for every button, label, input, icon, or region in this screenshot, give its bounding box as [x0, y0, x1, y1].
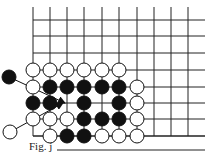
white-stone: [26, 112, 40, 126]
white-stone: [60, 63, 74, 77]
white-stone: [60, 112, 74, 126]
white-stone: [77, 63, 91, 77]
white-stone: [95, 63, 109, 77]
board-stones: [26, 63, 144, 143]
black-stone: [60, 129, 74, 143]
white-stone: [26, 80, 40, 94]
outside-stones: [2, 70, 17, 139]
white-stone: [130, 112, 144, 126]
white-stone-outside: [3, 125, 17, 139]
white-stone: [26, 63, 40, 77]
black-stone: [95, 112, 109, 126]
white-stone: [43, 112, 57, 126]
black-stone: [112, 112, 126, 126]
figure-caption: Fig. j: [29, 140, 52, 153]
black-stone: [95, 80, 109, 94]
white-stone: [95, 129, 109, 143]
white-stone: [43, 63, 57, 77]
black-stone: [43, 80, 57, 94]
black-stone: [77, 80, 91, 94]
black-stone: [77, 112, 91, 126]
white-stone: [112, 63, 126, 77]
white-stone: [130, 129, 144, 143]
black-stone: [112, 80, 126, 94]
white-stone: [130, 96, 144, 110]
white-stone: [130, 80, 144, 94]
black-stone: [43, 96, 57, 110]
black-stone: [112, 96, 126, 110]
black-stone: [77, 96, 91, 110]
black-stone-outside: [2, 70, 16, 84]
white-stone: [112, 129, 126, 143]
black-stone: [77, 129, 91, 143]
go-diagram: [0, 0, 210, 155]
black-stone: [26, 96, 40, 110]
black-stone: [60, 80, 74, 94]
